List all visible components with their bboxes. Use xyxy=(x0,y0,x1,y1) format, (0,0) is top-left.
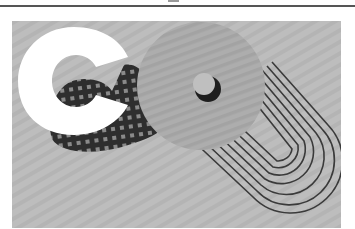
artwork-svg xyxy=(12,21,341,228)
small-circle xyxy=(193,73,215,95)
artwork-panel xyxy=(12,21,341,228)
caption-mark xyxy=(168,0,179,2)
page xyxy=(0,0,355,229)
top-rule-divider xyxy=(0,5,355,7)
